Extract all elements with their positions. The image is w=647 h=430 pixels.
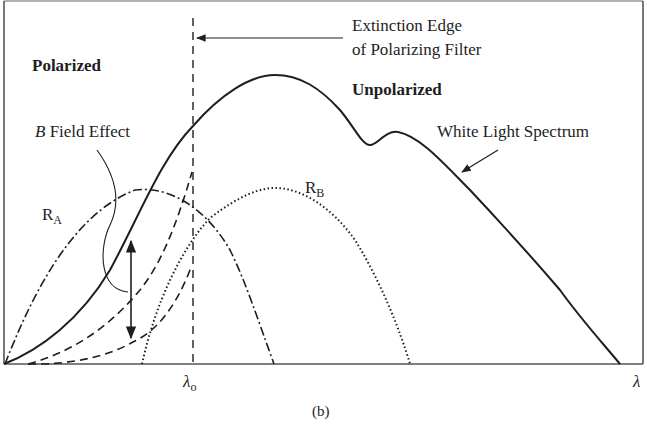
white-light-arrow xyxy=(462,150,498,172)
unpolarized-label: Unpolarized xyxy=(352,80,442,100)
lambda0-label: λo xyxy=(183,372,196,397)
ra-label: RA xyxy=(42,205,62,230)
x-axis-label: λ xyxy=(633,372,640,392)
b-field-leader xyxy=(97,150,128,292)
polarized-label: Polarized xyxy=(32,56,101,76)
white-light-spectrum-curve xyxy=(4,75,620,364)
b-field-shifted-curve-lower xyxy=(28,265,192,364)
b-field-symbol: B xyxy=(35,122,45,141)
extinction-label-line1: Extinction Edge xyxy=(352,16,462,36)
b-field-text: Field Effect xyxy=(45,122,130,141)
white-light-label: White Light Spectrum xyxy=(437,122,589,142)
rb-label: RB xyxy=(305,178,324,203)
figure-caption: (b) xyxy=(312,403,330,420)
rb-curve xyxy=(142,188,410,364)
extinction-label-line2: of Polarizing Filter xyxy=(352,40,481,60)
b-field-effect-label: B Field Effect xyxy=(35,122,130,142)
